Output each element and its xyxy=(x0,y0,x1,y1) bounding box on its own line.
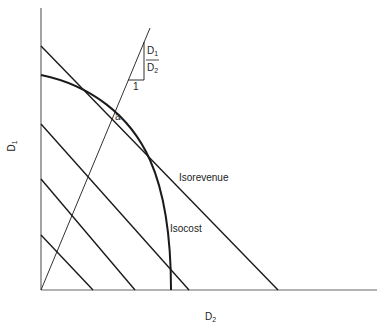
isorevenue-line-3 xyxy=(41,179,135,290)
isorevenue-line-outer xyxy=(41,46,278,290)
isorevenue-line-2 xyxy=(41,124,189,290)
slope-denominator: D2 xyxy=(147,62,158,74)
diagram-canvas xyxy=(0,0,383,332)
isocost-label: Isocost xyxy=(170,223,202,234)
isocost-curve xyxy=(41,75,171,290)
point-a-label: a xyxy=(115,111,121,122)
slope-run-label: 1 xyxy=(133,81,139,92)
ray-from-origin xyxy=(41,28,150,290)
isorevenue-line-4 xyxy=(41,235,93,290)
slope-numerator: D1 xyxy=(147,45,158,57)
isorevenue-label: Isorevenue xyxy=(179,172,228,183)
y-axis-label: D1 xyxy=(6,140,18,151)
x-axis-label: D2 xyxy=(205,311,216,323)
